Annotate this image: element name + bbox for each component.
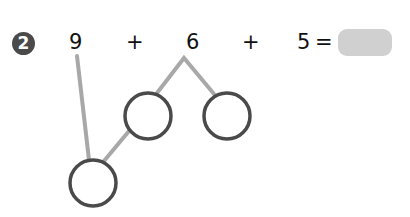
bond-circle-1[interactable]: [125, 93, 171, 139]
connector-line: [77, 56, 89, 160]
number-bond-diagram: [0, 0, 410, 217]
connector-line: [104, 131, 129, 161]
bond-circle-2[interactable]: [204, 93, 250, 139]
bond-circle-3[interactable]: [70, 160, 116, 206]
split-connector: [157, 58, 214, 94]
